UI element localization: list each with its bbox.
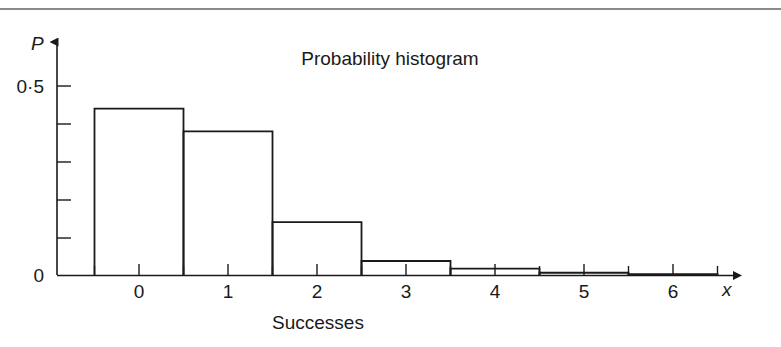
histogram-bar [184, 131, 273, 275]
y-axis: 0·5 0 P [17, 33, 71, 286]
x-tick-label-4: 4 [490, 281, 501, 302]
x-axis: 0 1 2 3 4 5 6 x [57, 264, 733, 302]
x-tick-label-5: 5 [579, 281, 590, 302]
probability-histogram-figure: 0·5 0 P 0 1 2 3 4 5 6 x Probability hist… [0, 0, 781, 347]
y-tick-label-half: 0·5 [17, 76, 44, 97]
histogram-chart-svg: 0·5 0 P 0 1 2 3 4 5 6 x Probability hist… [0, 0, 781, 347]
x-tick-label-6: 6 [668, 281, 679, 302]
y-tick-label-zero: 0 [33, 265, 44, 286]
x-tick-label-3: 3 [401, 281, 412, 302]
x-tick-label-1: 1 [223, 281, 234, 302]
histogram-bar [95, 109, 184, 275]
histogram-bars [95, 109, 718, 275]
x-tick-label-0: 0 [134, 281, 145, 302]
x-axis-caption: Successes [272, 312, 364, 333]
y-axis-symbol-label: P [31, 33, 44, 54]
x-tick-label-2: 2 [312, 281, 323, 302]
x-axis-symbol-label: x [721, 279, 733, 300]
chart-title: Probability histogram [301, 48, 478, 69]
histogram-bar [629, 274, 718, 275]
